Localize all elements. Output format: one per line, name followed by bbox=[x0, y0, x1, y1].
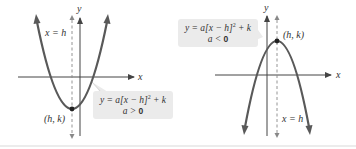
right-equation: y = a[x − h]2 + k bbox=[184, 22, 252, 33]
right-x-axis-label: x bbox=[335, 69, 341, 80]
right-y-axis-label: y bbox=[263, 2, 269, 13]
left-equation: y = a[x − h]2 + k bbox=[99, 94, 167, 105]
left-condition: a > 0 bbox=[123, 106, 144, 116]
left-dash-arrow-top bbox=[70, 15, 75, 20]
right-vertex-point bbox=[275, 39, 280, 44]
right-graph: y = a[x − h]2 + k a < 0 x y (h, k) x = h bbox=[178, 2, 341, 138]
right-curve-arrow-left bbox=[242, 125, 249, 135]
left-graph: x y x = h (h, k) y = a[x − h]2 + k a > 0 bbox=[18, 3, 173, 139]
left-curve-arrow-right bbox=[104, 14, 111, 24]
right-curve-arrow-right bbox=[306, 125, 313, 135]
left-x-axis-label: x bbox=[137, 71, 143, 82]
left-dash-arrow-bottom bbox=[70, 134, 75, 139]
left-vertex-point bbox=[70, 107, 75, 112]
right-callout-pointer bbox=[256, 27, 263, 40]
left-y-axis-label: y bbox=[76, 3, 82, 14]
right-axis-of-symmetry-label: x = h bbox=[281, 113, 303, 124]
right-condition: a < 0 bbox=[208, 34, 229, 44]
right-dash-arrow-top bbox=[275, 15, 280, 20]
left-vertex-label: (h, k) bbox=[44, 113, 66, 125]
left-curve-arrow-left bbox=[34, 14, 41, 24]
right-dash-arrow-bottom bbox=[275, 133, 280, 138]
parabola-vertex-form-figure: x y x = h (h, k) y = a[x − h]2 + k a > 0… bbox=[0, 0, 356, 149]
right-vertex-label: (h, k) bbox=[283, 29, 305, 41]
left-axis-of-symmetry-label: x = h bbox=[44, 27, 66, 38]
